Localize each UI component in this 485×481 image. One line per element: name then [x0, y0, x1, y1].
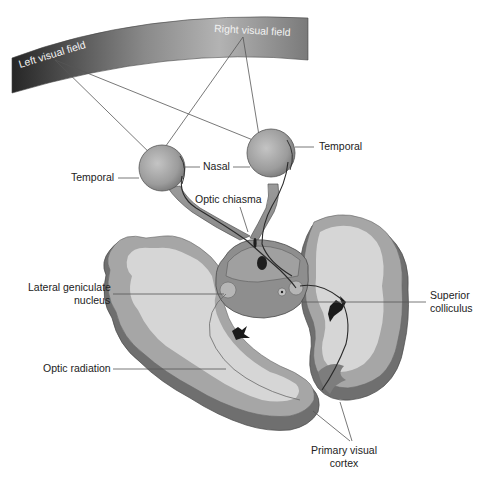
visual-pathway-diagram: Left visual field Right visual field	[0, 0, 485, 481]
temporal-right-label: Temporal	[319, 140, 362, 152]
ray-left-to-left-eye	[55, 60, 160, 163]
visual-field-band: Left visual field Right visual field	[12, 17, 308, 93]
temporal-left-label: Temporal	[71, 171, 114, 183]
right-eye	[247, 129, 295, 177]
lgn-label-line1: Lateral geniculate	[28, 281, 111, 293]
superior-colliculus-dot	[281, 291, 283, 293]
optic-chiasma-leader	[240, 207, 248, 232]
optic-chiasma-label: Optic chiasma	[195, 193, 262, 205]
right-eyeball	[247, 129, 295, 177]
third-ventricle	[257, 256, 267, 270]
left-eye	[139, 145, 185, 191]
cortex-leader-right	[340, 402, 352, 441]
primary-visual-cortex-label-line2: cortex	[330, 457, 359, 469]
left-lgn	[220, 282, 236, 298]
superior-colliculus-label-line1: Superior	[430, 289, 470, 301]
left-eyeball	[139, 145, 185, 191]
lgn-label-line2: nucleus	[74, 294, 110, 306]
optic-radiation-label: Optic radiation	[43, 362, 111, 374]
right-hemisphere	[300, 215, 409, 400]
superior-colliculus-label-line2: colliculus	[430, 302, 473, 314]
primary-visual-cortex-label-line1: Primary visual	[311, 444, 377, 456]
brainstem-thalamus	[216, 238, 309, 318]
right-hemisphere-white-matter	[316, 226, 384, 372]
nasal-label: Nasal	[203, 160, 230, 172]
